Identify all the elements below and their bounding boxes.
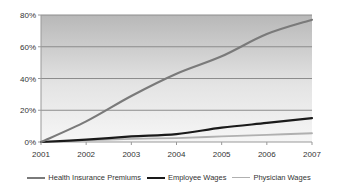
x-tick-label: 2007 [303,150,321,159]
x-tick-label: 2006 [258,150,276,159]
x-tick-label: 2001 [32,150,50,159]
y-tick-label: 0% [24,138,36,147]
legend-item-employee-wages: Employee Wages [147,173,227,182]
y-tick-label: 20% [20,106,36,115]
line-chart: 0%20%40%60%80% 2001200220032004200520062… [0,0,338,190]
legend-item-health-insurance: Health Insurance Premiums [27,173,141,182]
legend-swatch [27,177,45,179]
x-tick-label: 2003 [122,150,140,159]
legend-swatch [147,177,165,179]
legend-label: Health Insurance Premiums [48,173,141,182]
y-tick-label: 40% [20,75,36,84]
y-tick-label: 80% [20,11,36,20]
y-axis: 0%20%40%60%80% [20,11,41,147]
x-tick-label: 2004 [168,150,186,159]
legend-label: Physician Wages [253,173,310,182]
y-tick-label: 60% [20,43,36,52]
legend-swatch [232,177,250,178]
x-tick-label: 2005 [213,150,231,159]
legend: Health Insurance Premiums Employee Wages… [0,173,338,182]
legend-item-physician-wages: Physician Wages [232,173,310,182]
legend-label: Employee Wages [168,173,227,182]
x-tick-label: 2002 [77,150,95,159]
